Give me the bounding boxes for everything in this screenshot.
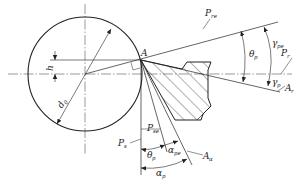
label-alpha-p-sub: p	[162, 173, 166, 180]
label-h: h	[45, 65, 55, 71]
label-alpha-pe-sub: pe	[174, 150, 182, 157]
label-point-a: A	[140, 48, 148, 58]
label-a-alpha-sub: α	[209, 156, 213, 162]
label-theta-p-bottom-sub: p	[152, 155, 156, 162]
label-p-r-sub: r	[287, 53, 290, 59]
right-angle-marker	[131, 63, 140, 71]
label-gamma-p-sub: p	[277, 82, 281, 89]
label-p-s-sub: s	[124, 143, 127, 149]
pre-line	[85, 22, 278, 74]
label-a-r-sub: r	[291, 88, 294, 94]
h-dimension	[50, 51, 141, 82]
label-p-re-sub: re	[211, 13, 218, 19]
label-gamma-pe-sub: pe	[277, 43, 285, 50]
label-theta-p-right-sub: p	[254, 54, 258, 61]
tool-geometry-diagram: A h d 0 P re P r A r P se P s A α θ p γ …	[0, 0, 306, 180]
diameter-line	[57, 29, 111, 124]
label-p-se-sub: se	[153, 128, 160, 134]
tool-body	[141, 60, 211, 120]
